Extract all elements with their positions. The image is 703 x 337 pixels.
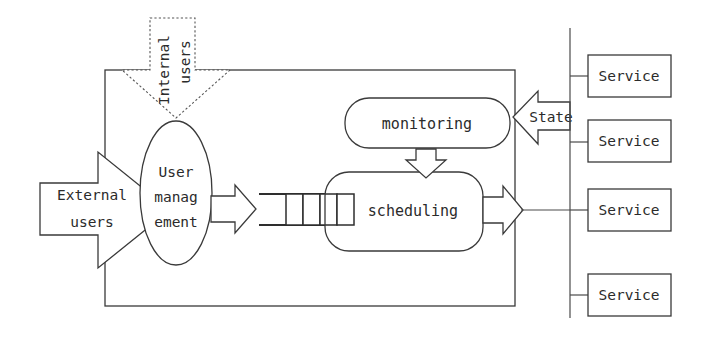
internal-users-label-line2: users <box>177 40 193 84</box>
queue-cells <box>286 194 354 225</box>
service-label: Service <box>598 287 659 303</box>
monitoring-label: monitoring <box>382 115 472 133</box>
internal-users-arrow <box>122 18 230 118</box>
service-label: Service <box>598 133 659 149</box>
service-box-group-1: Service <box>570 55 671 97</box>
scheduling-to-services-arrow <box>483 186 523 234</box>
usermgmt-to-queue-arrow <box>211 185 256 233</box>
service-label: Service <box>598 202 659 218</box>
internal-users-label-line1: Internal <box>156 35 172 105</box>
architecture-diagram-svg: Internal users External users User manag… <box>0 0 703 337</box>
queue-cell <box>303 194 320 225</box>
external-users-label-line2: users <box>70 214 114 230</box>
monitoring-to-scheduling-arrow <box>406 149 446 178</box>
state-label: State <box>529 109 573 125</box>
service-box-group-3: Service <box>570 189 671 231</box>
user-management-label-line2: manag <box>154 189 198 205</box>
user-management-label-line3: ement <box>154 214 198 230</box>
queue-cell <box>286 194 303 225</box>
queue-cell <box>320 194 337 225</box>
user-management-label-line1: User <box>159 164 194 180</box>
queue-cell <box>337 194 354 225</box>
diagram-canvas: Internal users External users User manag… <box>0 0 703 337</box>
scheduling-label: scheduling <box>368 202 458 220</box>
external-users-label-line1: External <box>57 187 127 203</box>
service-label: Service <box>598 68 659 84</box>
service-box-group-2: Service <box>570 120 671 162</box>
service-box-group-4: Service <box>570 274 671 316</box>
